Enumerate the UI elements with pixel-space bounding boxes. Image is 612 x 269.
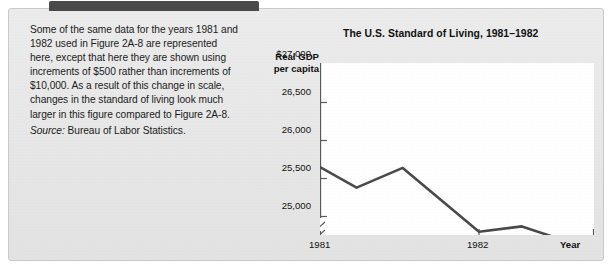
caption-source: Source: Bureau of Labor Statistics. bbox=[30, 124, 240, 138]
chart-title: The U.S. Standard of Living, 1981–1982 bbox=[343, 28, 593, 39]
plot-area bbox=[320, 63, 594, 235]
y-tick-label-26000: 26,000 bbox=[245, 124, 311, 135]
y-axis-break-icon bbox=[320, 222, 325, 235]
card-tab-decoration bbox=[49, 1, 259, 11]
source-label: Source: bbox=[30, 125, 65, 136]
y-tick-label-25500: 25,500 bbox=[245, 162, 311, 173]
y-tick-label-27000: $27,000 bbox=[245, 48, 311, 59]
y-tick-label-26500: 26,500 bbox=[245, 86, 311, 97]
line-chart-svg bbox=[320, 63, 594, 235]
x-tick-marks bbox=[321, 229, 594, 235]
x-axis-title: Year bbox=[560, 239, 580, 250]
data-series-line bbox=[320, 167, 594, 235]
y-tick-label-25000: 25,000 bbox=[245, 200, 311, 211]
source-text: Bureau of Labor Statistics. bbox=[65, 125, 186, 136]
chart-container: The U.S. Standard of Living, 1981–1982 R… bbox=[245, 17, 597, 255]
caption-paragraph: Some of the same data for the years 1981… bbox=[30, 23, 240, 122]
y-axis-title-line2: per capita bbox=[249, 63, 319, 75]
x-tick-label-1981: 1981 bbox=[309, 239, 330, 250]
axis-lines bbox=[321, 63, 595, 235]
figure-caption: Some of the same data for the years 1981… bbox=[30, 23, 240, 138]
figure-card: Some of the same data for the years 1981… bbox=[8, 8, 604, 261]
x-tick-label-1982: 1982 bbox=[467, 239, 488, 250]
